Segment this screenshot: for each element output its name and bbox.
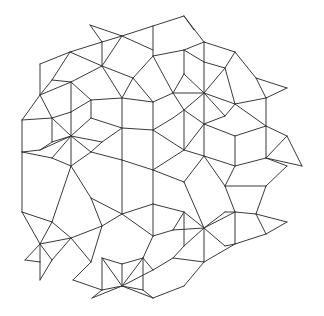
tile-edge bbox=[153, 16, 184, 26]
tile-edge bbox=[102, 128, 122, 142]
tile-edge bbox=[25, 244, 40, 260]
tile-edge bbox=[256, 186, 266, 214]
tile-edge bbox=[204, 156, 225, 186]
tile-edge bbox=[204, 42, 235, 52]
tile-edge bbox=[70, 52, 102, 66]
tile-edge bbox=[71, 118, 91, 136]
tile-edge bbox=[91, 118, 122, 128]
tile-edge bbox=[91, 152, 122, 160]
tile-edge bbox=[235, 52, 256, 78]
tile-edge bbox=[122, 36, 153, 50]
tile-edge bbox=[153, 130, 184, 150]
tile-edge bbox=[225, 104, 235, 116]
tile-edge bbox=[92, 290, 102, 298]
tile-edge bbox=[204, 212, 235, 228]
tile-edge bbox=[52, 118, 71, 136]
tile-edge bbox=[71, 166, 91, 198]
tile-edge bbox=[184, 42, 204, 50]
tile-edge bbox=[102, 258, 122, 286]
tile-edge bbox=[153, 286, 184, 298]
tile-edge bbox=[235, 126, 266, 136]
tile-edge bbox=[133, 56, 153, 78]
tile-edge bbox=[204, 212, 225, 228]
tile-edge bbox=[204, 228, 225, 246]
tile-edge bbox=[40, 244, 52, 260]
tile-edge bbox=[235, 212, 256, 214]
tile-edge bbox=[143, 258, 153, 270]
tile-edge bbox=[52, 222, 71, 238]
tile-edge bbox=[122, 258, 143, 286]
tile-edge bbox=[52, 166, 71, 222]
tile-edge bbox=[204, 62, 225, 68]
tile-edge bbox=[102, 36, 122, 66]
tile-edge bbox=[122, 270, 153, 286]
tile-edge bbox=[90, 25, 122, 36]
tile-edge bbox=[22, 150, 40, 152]
tile-edge bbox=[266, 166, 287, 186]
tile-edge bbox=[153, 150, 184, 170]
tile-edge bbox=[153, 230, 173, 236]
tile-edge bbox=[184, 150, 204, 156]
tile-edge bbox=[25, 260, 40, 262]
tile-edge bbox=[22, 152, 52, 158]
tile-edge bbox=[122, 26, 153, 36]
tile-edge bbox=[73, 280, 102, 290]
tile-edge bbox=[22, 95, 40, 120]
tile-edge bbox=[91, 226, 102, 262]
tile-edge bbox=[225, 186, 235, 212]
tile-edge bbox=[22, 118, 52, 120]
tile-edge bbox=[91, 142, 102, 152]
tile-edge bbox=[102, 258, 122, 264]
tile-edge bbox=[204, 156, 235, 166]
tile-edge bbox=[52, 80, 71, 82]
tile-edge bbox=[143, 290, 153, 298]
tile-edge bbox=[184, 262, 204, 286]
tile-edge bbox=[122, 214, 153, 236]
tile-edge bbox=[184, 50, 204, 62]
tile-edge bbox=[184, 93, 204, 110]
tile-edge bbox=[225, 166, 235, 186]
tile-edge bbox=[173, 110, 184, 118]
tile-edge bbox=[173, 74, 184, 93]
tile-edge bbox=[40, 52, 70, 64]
tile-edge bbox=[173, 258, 204, 262]
tile-edge bbox=[122, 128, 153, 130]
tile-edge bbox=[40, 260, 52, 280]
tile-edge bbox=[133, 78, 153, 102]
tile-edge bbox=[91, 98, 122, 100]
tile-edge bbox=[235, 234, 266, 244]
tile-edge bbox=[153, 93, 173, 102]
tile-edge bbox=[235, 158, 266, 166]
tile-edge bbox=[71, 136, 102, 142]
tile-edge bbox=[73, 262, 91, 280]
tile-edge bbox=[153, 258, 173, 270]
tile-edge bbox=[122, 286, 153, 298]
tile-edge bbox=[40, 222, 52, 244]
tile-edge bbox=[204, 244, 235, 262]
tile-edge bbox=[122, 98, 153, 102]
tile-edge bbox=[184, 74, 204, 93]
tile-edge bbox=[91, 198, 122, 214]
tile-edge bbox=[204, 124, 235, 136]
tile-edge bbox=[102, 286, 122, 290]
tile-edge bbox=[143, 236, 153, 258]
tile-edge bbox=[102, 214, 122, 226]
tile-edge bbox=[184, 156, 204, 182]
tile-edge bbox=[266, 88, 287, 98]
tile-edge bbox=[266, 136, 287, 158]
tile-edge bbox=[122, 204, 153, 214]
tile-edge bbox=[153, 170, 184, 182]
tile-edge bbox=[52, 112, 71, 118]
tiling-figure bbox=[0, 0, 324, 316]
tile-edge bbox=[71, 238, 91, 262]
tile-edge bbox=[287, 136, 302, 166]
tile-edge bbox=[71, 226, 102, 238]
tile-edge bbox=[122, 78, 133, 98]
tile-edge bbox=[153, 50, 184, 56]
tile-edge bbox=[122, 258, 143, 264]
tile-edge bbox=[184, 124, 204, 150]
tile-edge bbox=[266, 126, 287, 136]
tile-edge bbox=[184, 228, 204, 246]
tile-edge bbox=[235, 104, 266, 126]
tile-edge bbox=[184, 182, 204, 228]
